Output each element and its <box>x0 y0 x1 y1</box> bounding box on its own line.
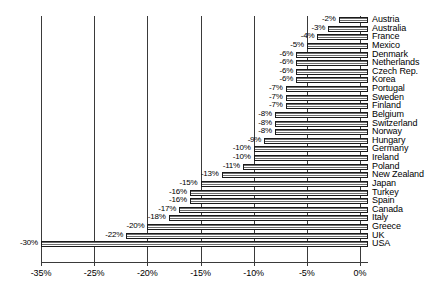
bar <box>190 198 368 204</box>
bar <box>254 146 368 152</box>
bar-value-label: -22% <box>94 230 123 239</box>
bar-row: -30%USA <box>0 240 437 248</box>
x-axis-tick <box>94 262 95 266</box>
x-axis-tick-label: -10% <box>224 268 284 278</box>
x-axis-tick <box>201 262 202 266</box>
bar <box>286 95 368 101</box>
bar-value-label: -6% <box>264 66 293 75</box>
bar <box>275 121 368 127</box>
bar <box>275 112 368 118</box>
bar <box>286 86 368 92</box>
x-axis-baseline <box>41 262 368 263</box>
bar-value-label: -30% <box>9 238 38 247</box>
x-axis-tick <box>41 262 42 266</box>
bar <box>296 69 368 75</box>
x-axis-tick-label: -15% <box>171 268 231 278</box>
x-axis-tick-label: -5% <box>277 268 337 278</box>
bar-value-label: -10% <box>222 143 251 152</box>
bar <box>254 155 368 161</box>
bar-value-label: -13% <box>190 169 219 178</box>
bar-value-label: -16% <box>158 195 187 204</box>
bar <box>296 60 368 66</box>
bar-value-label: -8% <box>243 118 272 127</box>
bar <box>264 138 368 144</box>
bar <box>243 164 368 170</box>
bar <box>317 34 368 40</box>
bar <box>296 77 368 83</box>
bar <box>296 52 368 58</box>
x-axis-tick <box>360 262 361 266</box>
x-axis-tick <box>147 262 148 266</box>
bar <box>222 172 368 178</box>
bar-value-label: -20% <box>115 221 144 230</box>
bar-value-label: -7% <box>254 92 283 101</box>
bar-chart: -35%-25%-20%-15%-10%-5%0% -2%Austria-3%A… <box>0 0 437 284</box>
bar <box>169 215 368 221</box>
bar <box>41 241 368 247</box>
x-axis-tick <box>254 262 255 266</box>
bar <box>147 224 368 230</box>
bar <box>126 233 368 239</box>
bar <box>286 103 368 109</box>
bar <box>190 190 368 196</box>
x-axis-tick <box>307 262 308 266</box>
bar <box>328 26 368 32</box>
x-axis-tick-label: 0% <box>330 268 390 278</box>
bar <box>275 129 368 135</box>
bar <box>339 17 368 23</box>
x-axis-tick-label: -25% <box>64 268 124 278</box>
bar <box>179 207 368 213</box>
x-axis-tick-label: -20% <box>117 268 177 278</box>
bar <box>201 181 369 187</box>
category-label: USA <box>372 239 390 248</box>
bar <box>307 43 368 49</box>
bar-value-label: -5% <box>275 40 304 49</box>
x-axis-tick-label: -35% <box>11 268 71 278</box>
